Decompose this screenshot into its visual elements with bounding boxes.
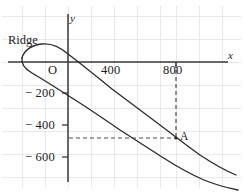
ridge-label: Ridge xyxy=(8,34,38,47)
x-tick-label-400: 400 xyxy=(101,64,120,77)
x-axis-label: x xyxy=(228,50,233,61)
ridge-coordinate-diagram: Ridge O y x 400 800 − 200 − 400 − 600 A xyxy=(0,0,243,194)
y-tick-label-minus-600: − 600 xyxy=(25,151,55,164)
y-axis-ticks xyxy=(62,93,68,157)
y-tick-label-minus-400: − 400 xyxy=(25,119,55,132)
y-axis-label: y xyxy=(70,13,75,24)
point-a-marker xyxy=(174,136,177,139)
x-tick-label-800: 800 xyxy=(163,64,182,77)
point-a-label: A xyxy=(180,131,188,143)
origin-label: O xyxy=(48,64,57,77)
y-tick-label-minus-200: − 200 xyxy=(25,87,55,100)
